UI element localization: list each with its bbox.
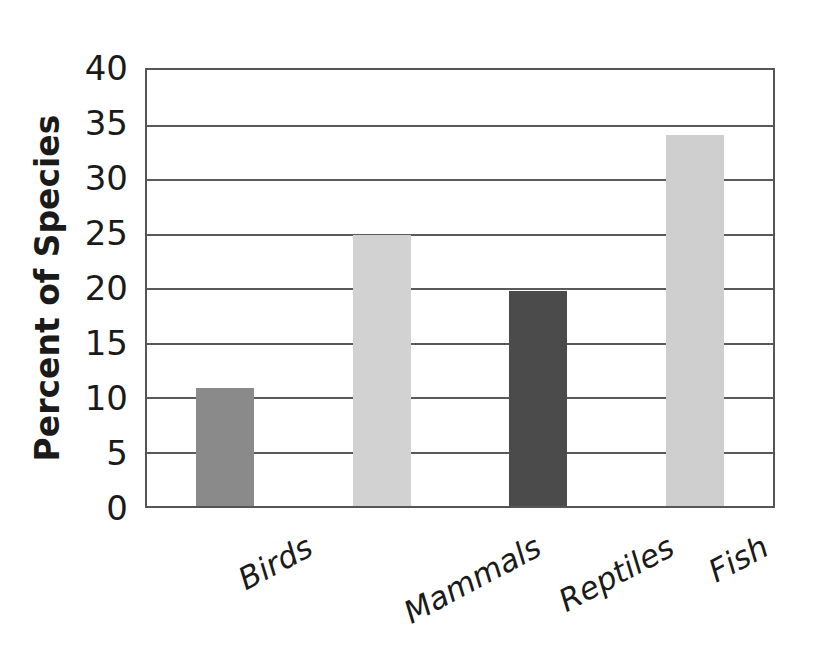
y-axis-tick-label: 10	[85, 381, 128, 415]
x-axis-tick-label: Fish	[704, 530, 774, 588]
y-axis-tick-label: 0	[106, 491, 128, 525]
bar[interactable]	[196, 388, 254, 506]
x-axis-tick-slot: Birds	[145, 508, 303, 667]
y-axis-tick-label: 5	[106, 436, 128, 470]
x-axis-tick-labels: BirdsMammalsReptilesFish	[145, 508, 775, 667]
y-axis-tick-label: 35	[85, 106, 128, 140]
x-axis-tick-slot: Reptiles	[460, 508, 618, 667]
y-axis-tick-label: 20	[85, 271, 128, 305]
y-axis-tick-label: 15	[85, 326, 128, 360]
y-axis-tick-labels: 4035302520151050	[72, 68, 134, 508]
bars-group	[147, 70, 773, 506]
y-axis-tick-label: 30	[85, 161, 128, 195]
bar-slot	[304, 70, 461, 506]
bar-slot	[617, 70, 774, 506]
bar[interactable]	[666, 135, 724, 506]
bar[interactable]	[509, 291, 567, 506]
bar-chart-figure: Percent of Species 4035302520151050 Bird…	[0, 0, 823, 667]
bar-slot	[147, 70, 304, 506]
y-axis-title: Percent of Species	[26, 68, 70, 508]
y-axis-tick-label: 25	[85, 216, 128, 250]
bar[interactable]	[353, 235, 411, 506]
plot-area	[145, 68, 775, 508]
x-axis-tick-slot: Mammals	[303, 508, 461, 667]
bar-slot	[460, 70, 617, 506]
y-axis-tick-label: 40	[85, 51, 128, 85]
x-axis-tick-slot: Fish	[618, 508, 776, 667]
